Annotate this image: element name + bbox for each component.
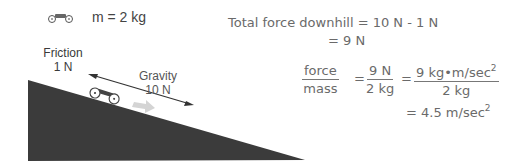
result-text: = 4.5 m/sec xyxy=(406,105,485,120)
equals-2: = xyxy=(401,71,412,86)
friction-name: Friction xyxy=(43,46,83,60)
units-num-exp: 2 xyxy=(491,63,497,73)
gravity-label: Gravity 10 N xyxy=(133,69,183,97)
units-num-text: 9 kg•m/sec xyxy=(416,65,491,80)
nine-n-text: 9 N xyxy=(367,63,393,80)
force-over-mass: force mass xyxy=(302,63,339,96)
units-fraction: 9 kg•m/sec2 2 kg xyxy=(414,61,499,98)
friction-label: Friction 1 N xyxy=(43,46,83,74)
total-force-line2: = 9 N xyxy=(328,33,365,48)
units-numerator: 9 kg•m/sec2 xyxy=(414,61,499,82)
mass-label: m = 2 kg xyxy=(92,9,146,25)
friction-value: 1 N xyxy=(43,60,83,74)
nine-n-over-two-kg: 9 N 2 kg xyxy=(366,63,394,96)
mass-text: mass xyxy=(303,80,337,96)
result-exp: 2 xyxy=(485,103,491,113)
force-text: force xyxy=(302,63,339,80)
total-force-line1: Total force downhill = 10 N - 1 N xyxy=(228,15,438,30)
result: = 4.5 m/sec2 xyxy=(406,103,491,120)
gravity-value: 10 N xyxy=(133,83,183,97)
gravity-name: Gravity xyxy=(133,69,183,83)
equals-1: = xyxy=(354,71,365,86)
units-denominator: 2 kg xyxy=(442,82,470,98)
car-icon xyxy=(49,14,73,23)
two-kg-text: 2 kg xyxy=(366,80,394,96)
